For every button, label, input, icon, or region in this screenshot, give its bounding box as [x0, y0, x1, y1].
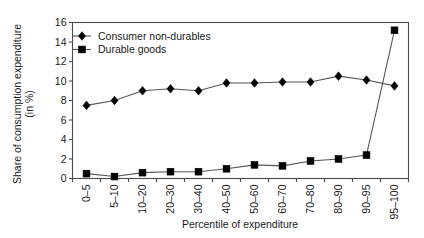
series-line — [87, 76, 395, 105]
legend-item: Consumer non-durables — [73, 30, 211, 42]
data-point-marker — [167, 168, 174, 175]
data-point-marker — [139, 86, 146, 95]
data-point-marker — [195, 168, 202, 175]
chart-figure: Share of consumption expenditure (in %) … — [0, 0, 424, 238]
legend-label: Consumer non-durables — [98, 30, 211, 42]
x-tick-label: 5–10 — [108, 184, 120, 208]
data-point-marker — [251, 79, 258, 88]
data-point-marker — [139, 169, 146, 176]
data-point-marker — [279, 162, 286, 169]
y-tick-label: 14 — [55, 36, 67, 48]
x-tick-label: 95–100 — [388, 184, 400, 219]
y-tick-label: 4 — [61, 133, 67, 145]
data-point-marker — [279, 78, 286, 87]
x-tick-label: 20–30 — [164, 184, 176, 213]
data-point-marker — [251, 161, 258, 168]
x-axis-tick-labels: 0–55–1010–2020–3030–4040–5050–6060–7070–… — [80, 184, 400, 219]
y-tick-label: 16 — [55, 16, 67, 28]
x-tick-label: 60–70 — [276, 184, 288, 213]
data-point-marker — [111, 96, 118, 105]
x-tick-label: 70–80 — [304, 184, 316, 213]
y-tick-label: 8 — [61, 94, 67, 106]
x-tick-label: 90–95 — [360, 184, 372, 213]
x-tick-label: 30–40 — [192, 184, 204, 213]
data-point-marker — [83, 170, 90, 177]
data-point-marker — [167, 85, 174, 94]
legend-label: Durable goods — [98, 43, 166, 55]
line-chart: Share of consumption expenditure (in %) … — [0, 0, 424, 238]
data-point-marker — [335, 72, 342, 81]
x-axis-title: Percentile of expenditure — [182, 218, 298, 230]
x-tick-label: 50–60 — [248, 184, 260, 213]
y-axis-title: Share of consumption expenditure (in %) — [11, 24, 35, 184]
y-axis-title-line1: Share of consumption expenditure — [11, 24, 23, 184]
data-point-marker — [391, 27, 398, 34]
y-axis-title-line2: (in %) — [23, 90, 35, 117]
data-point-marker — [78, 32, 85, 41]
data-point-marker — [223, 79, 230, 88]
data-point-marker — [363, 152, 370, 159]
data-point-marker — [195, 86, 202, 95]
data-point-marker — [79, 46, 86, 53]
chart-legend: Consumer non-durablesDurable goods — [73, 30, 211, 56]
data-point-marker — [335, 156, 342, 163]
y-tick-label: 10 — [55, 75, 67, 87]
data-point-marker — [111, 173, 118, 180]
x-tick-label: 40–50 — [220, 184, 232, 213]
data-point-marker — [391, 82, 398, 91]
data-point-marker — [83, 101, 90, 110]
series-diamond — [83, 72, 398, 110]
data-point-marker — [307, 158, 314, 165]
x-tick-label: 10–20 — [136, 184, 148, 213]
data-point-marker — [307, 78, 314, 87]
data-point-marker — [363, 76, 370, 85]
y-tick-label: 2 — [61, 153, 67, 165]
y-tick-label: 12 — [55, 55, 67, 67]
data-point-marker — [223, 165, 230, 172]
y-tick-label: 0 — [61, 172, 67, 184]
x-tick-label: 0–5 — [80, 184, 92, 202]
legend-item: Durable goods — [73, 43, 166, 55]
y-axis-tick-labels: 0246810121416 — [55, 16, 67, 184]
y-tick-label: 6 — [61, 114, 67, 126]
x-tick-label: 80–90 — [332, 184, 344, 213]
